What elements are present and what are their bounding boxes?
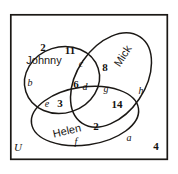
venn-diagram-canvas: [0, 0, 178, 174]
venn-diagram-figure: Johnny Mick Helen 2 11 8 6 3 14 2 4 c b …: [0, 0, 178, 174]
